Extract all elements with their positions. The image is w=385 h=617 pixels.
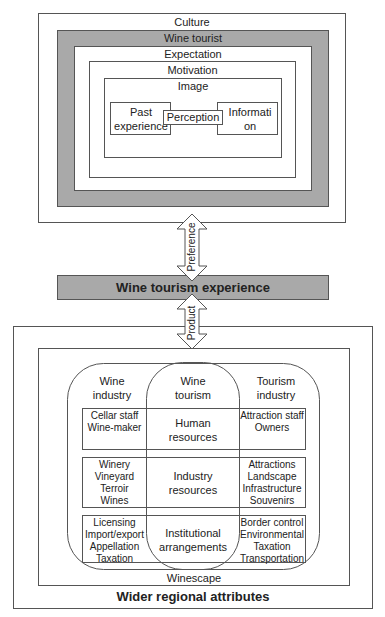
cell-line: Landscape (239, 471, 305, 483)
column-header-tourism-industry: Tourism industry (236, 374, 316, 402)
row2-right-cell: Attractions Landscape Infrastructure Sou… (239, 459, 305, 507)
column-header-wine-tourism: Wine tourism (152, 374, 234, 402)
column-header-line2: tourism (152, 388, 234, 402)
cell-line: resources (147, 430, 239, 444)
cell-line: Winery (83, 459, 146, 471)
row3-left-cell: Licensing Import/export Appellation Taxa… (83, 517, 146, 565)
preference-label: Preference (186, 217, 198, 277)
cell-line: Owners (239, 422, 305, 434)
cell-line: Import/export (83, 529, 146, 541)
column-header-line2: industry (236, 388, 316, 402)
cell-line: arrangements (147, 540, 239, 554)
row3-right-cell: Border control Environmental Taxation Tr… (239, 517, 305, 565)
cell-line: Attraction staff (239, 410, 305, 422)
cell-line: Wines (83, 495, 146, 507)
cell-line: Terroir (83, 483, 146, 495)
cell-line: Institutional (147, 526, 239, 540)
row2-center-cell: Industry resources (147, 469, 239, 497)
cell-line: Transportation (239, 553, 305, 565)
cell-line: Licensing (83, 517, 146, 529)
column-header-line1: Wine (72, 374, 152, 388)
cell-line: Environmental (239, 529, 305, 541)
cell-line: Attractions (239, 459, 305, 471)
cell-line: Taxation (83, 553, 146, 565)
row1-left-cell: Cellar staff Wine-maker (83, 410, 146, 434)
column-header-line2: industry (72, 388, 152, 402)
row2-left-cell: Winery Vineyard Terroir Wines (83, 459, 146, 507)
cell-line: Taxation (239, 541, 305, 553)
cell-line: Infrastructure (239, 483, 305, 495)
cell-line: Vineyard (83, 471, 146, 483)
row1-right-cell: Attraction staff Owners (239, 410, 305, 434)
cell-line: Appellation (83, 541, 146, 553)
cell-line: resources (147, 483, 239, 497)
row1-center-cell: Human resources (147, 416, 239, 444)
column-header-line1: Tourism (236, 374, 316, 388)
cell-line: Industry (147, 469, 239, 483)
cell-line: Human (147, 416, 239, 430)
cell-line: Wine-maker (83, 422, 146, 434)
column-header-wine-industry: Wine industry (72, 374, 152, 402)
cell-line: Cellar staff (83, 410, 146, 422)
row3-center-cell: Institutional arrangements (147, 526, 239, 554)
column-header-line1: Wine (152, 374, 234, 388)
cell-line: Border control (239, 517, 305, 529)
cell-line: Souvenirs (239, 495, 305, 507)
product-label: Product (186, 298, 198, 348)
